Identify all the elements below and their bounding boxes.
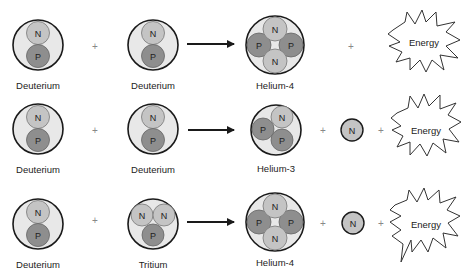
proton-label: P	[150, 52, 156, 62]
plus-sign: +	[92, 125, 98, 136]
proton-label: P	[150, 231, 156, 241]
neutron-label: N	[272, 202, 279, 212]
reaction-row-3: N P Deuterium + N N P Tritium P P N	[13, 188, 460, 270]
plus-sign: +	[92, 41, 98, 52]
plus-sign: +	[92, 215, 98, 226]
deuterium-nucleus: N P	[128, 104, 178, 154]
helium-4-nucleus: P P N N	[246, 16, 304, 74]
reactant-1-label: Deuterium	[16, 259, 60, 270]
reactant-2-label: Deuterium	[131, 164, 175, 175]
plus-sign: +	[320, 125, 326, 136]
product-label: Helium-4	[256, 80, 294, 91]
neutron-label: N	[272, 234, 279, 244]
neutron-label: N	[272, 25, 279, 35]
plus-sign: +	[320, 218, 326, 229]
proton-label: P	[35, 52, 41, 62]
energy-burst-icon: Energy	[390, 188, 460, 262]
reactant-1-label: Deuterium	[16, 164, 60, 175]
proton-label: P	[256, 41, 262, 51]
proton-label: P	[279, 136, 285, 146]
free-neutron: N	[341, 119, 363, 141]
energy-burst-icon: Energy	[388, 10, 460, 72]
neutron-label: N	[150, 29, 157, 39]
proton-label: P	[150, 136, 156, 146]
reactant-2-label: Tritium	[139, 259, 168, 270]
proton-label: P	[35, 136, 41, 146]
proton-label: P	[288, 218, 294, 228]
neutron-label: N	[350, 219, 357, 229]
energy-label: Energy	[409, 37, 439, 48]
helium-3-nucleus: N P P	[251, 105, 301, 155]
plus-sign: +	[348, 41, 354, 52]
reaction-row-1: N P Deuterium + N P Deuterium P P N N	[13, 10, 460, 91]
reactant-1-label: Deuterium	[16, 80, 60, 91]
plus-sign: +	[378, 125, 384, 136]
energy-label: Energy	[411, 219, 441, 230]
proton-label: P	[288, 41, 294, 51]
product-label: Helium-4	[256, 257, 294, 268]
proton-label: P	[35, 231, 41, 241]
tritium-nucleus: N N P	[128, 199, 178, 249]
neutron-label: N	[161, 211, 168, 221]
product-label: Helium-3	[257, 163, 295, 174]
plus-sign: +	[378, 218, 384, 229]
neutron-label: N	[35, 29, 42, 39]
deuterium-nucleus: N P	[13, 199, 63, 249]
neutron-label: N	[35, 113, 42, 123]
reactant-2-label: Deuterium	[131, 80, 175, 91]
reaction-row-2: N P Deuterium + N P Deuterium N P P Heli…	[13, 94, 461, 175]
deuterium-nucleus: N P	[128, 20, 178, 70]
free-neutron: N	[342, 212, 364, 234]
deuterium-nucleus: N P	[13, 20, 63, 70]
proton-label: P	[260, 125, 266, 135]
energy-burst-icon: Energy	[391, 94, 461, 156]
neutron-label: N	[35, 208, 42, 218]
fusion-diagram: N P Deuterium + N P Deuterium P P N N	[0, 0, 470, 280]
neutron-label: N	[279, 113, 286, 123]
neutron-label: N	[150, 113, 157, 123]
neutron-label: N	[272, 57, 279, 67]
energy-label: Energy	[411, 125, 441, 136]
proton-label: P	[256, 218, 262, 228]
neutron-label: N	[349, 126, 356, 136]
helium-4-nucleus: P P N N	[246, 193, 304, 251]
deuterium-nucleus: N P	[13, 104, 63, 154]
neutron-label: N	[139, 211, 146, 221]
